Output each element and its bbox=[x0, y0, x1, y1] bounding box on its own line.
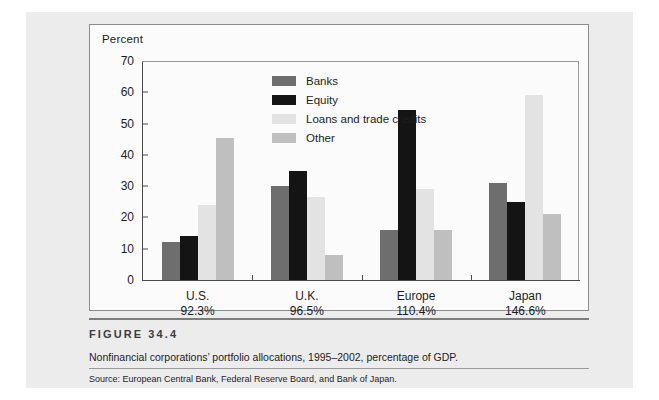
chart-panel: Percent 010203040506070U.S.92.3%U.K.96.5… bbox=[89, 24, 589, 311]
bar bbox=[289, 171, 307, 281]
bar-group bbox=[143, 61, 252, 280]
y-axis-title: Percent bbox=[102, 33, 143, 45]
legend-item-label: Loans and trade credits bbox=[306, 113, 426, 125]
x-axis-group-value: 92.3% bbox=[181, 304, 215, 319]
bar bbox=[325, 255, 343, 280]
x-axis-group-separator bbox=[362, 275, 363, 280]
x-axis-group-label: U.S.92.3% bbox=[181, 280, 215, 319]
figure-number: FIGURE 34.4 bbox=[89, 328, 589, 340]
legend-item-label: Banks bbox=[306, 75, 338, 87]
bar bbox=[380, 230, 398, 280]
x-axis-group-separator bbox=[471, 275, 472, 280]
y-axis-tick-label: 50 bbox=[121, 117, 143, 131]
bar bbox=[271, 186, 289, 280]
legend-item-label: Other bbox=[306, 132, 335, 144]
bar bbox=[507, 202, 525, 280]
legend-swatch-icon bbox=[272, 76, 296, 86]
bar bbox=[489, 183, 507, 280]
x-axis-group-label: Europe110.4% bbox=[396, 280, 436, 319]
bar-group-bars bbox=[471, 61, 580, 280]
y-axis-tick-label: 10 bbox=[121, 242, 143, 256]
y-axis-tick-label: 30 bbox=[121, 179, 143, 193]
figure-page: Percent 010203040506070U.S.92.3%U.K.96.5… bbox=[26, 12, 633, 388]
bar bbox=[543, 214, 561, 280]
chart-legend: BanksEquityLoans and trade creditsOther bbox=[272, 71, 426, 147]
legend-item: Banks bbox=[272, 71, 426, 90]
x-axis-group-name: U.S. bbox=[181, 289, 215, 304]
caption-top-rule bbox=[89, 318, 589, 320]
bar bbox=[416, 189, 434, 280]
legend-item-label: Equity bbox=[306, 94, 338, 106]
bar bbox=[525, 95, 543, 280]
bar bbox=[307, 197, 325, 280]
legend-swatch-icon bbox=[272, 114, 296, 124]
bar bbox=[162, 242, 180, 280]
x-axis-group-value: 146.6% bbox=[505, 304, 546, 319]
bar bbox=[180, 236, 198, 280]
bar-group-bars bbox=[143, 61, 252, 280]
x-axis-group-name: Japan bbox=[505, 289, 546, 304]
y-axis-tick-label: 0 bbox=[127, 273, 143, 287]
y-axis-tick-label: 60 bbox=[121, 85, 143, 99]
figure-description: Nonfinancial corporations’ portfolio all… bbox=[89, 351, 589, 369]
x-axis-group-value: 110.4% bbox=[396, 304, 436, 319]
y-axis-tick-label: 70 bbox=[121, 54, 143, 68]
figure-caption-block: FIGURE 34.4 Nonfinancial corporations’ p… bbox=[89, 318, 589, 384]
x-axis-group-name: U.K. bbox=[290, 289, 324, 304]
bar bbox=[198, 205, 216, 280]
bar bbox=[434, 230, 452, 280]
x-axis-group-label: Japan146.6% bbox=[505, 280, 546, 319]
x-axis-group-label: U.K.96.5% bbox=[290, 280, 324, 319]
legend-swatch-icon bbox=[272, 133, 296, 143]
legend-item: Other bbox=[272, 128, 426, 147]
x-axis-group-value: 96.5% bbox=[290, 304, 324, 319]
y-axis-tick-label: 40 bbox=[121, 148, 143, 162]
x-axis-group-name: Europe bbox=[396, 289, 436, 304]
legend-item: Loans and trade credits bbox=[272, 109, 426, 128]
legend-swatch-icon bbox=[272, 95, 296, 105]
figure-source: Source: European Central Bank, Federal R… bbox=[89, 374, 589, 384]
x-axis-group-separator bbox=[252, 275, 253, 280]
y-axis-tick-label: 20 bbox=[121, 210, 143, 224]
legend-item: Equity bbox=[272, 90, 426, 109]
bar-group bbox=[471, 61, 580, 280]
bar bbox=[216, 138, 234, 280]
